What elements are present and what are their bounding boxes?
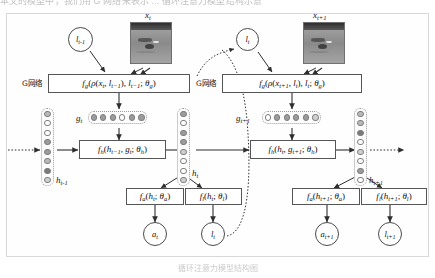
g-network-label-left: G网络	[22, 80, 42, 88]
location-head-box-t1: fl(ht+1; θl)	[361, 188, 427, 205]
action-head-box-t1-formula: fa(ht+1; θa)	[307, 191, 345, 202]
glimpse-location-node-t: lt	[236, 28, 259, 51]
core-network-box-t: fh(ht−1, gt; θh)	[79, 140, 166, 159]
input-image-label-t1: xt+1	[313, 11, 326, 21]
action-head-box-t-formula: fa(ht; θa)	[140, 191, 171, 202]
hidden-state-label-t-prev: ht-1	[56, 176, 68, 186]
hidden-state-t-unit	[180, 177, 186, 183]
glimpse-node-t-prev-sub: t-1	[78, 39, 85, 45]
glimpse-node-t-sub: t	[248, 39, 250, 45]
hidden-state-t-prev-unit	[44, 149, 50, 155]
hidden-state-column-t-next	[354, 108, 367, 186]
hidden-state-t-next-unit	[357, 130, 363, 136]
figure-page: 本文的模型中，我们用 G 网络来表示 ... 循环注意力模型结构示意	[0, 0, 435, 278]
output-node-location-t: lt	[201, 222, 225, 246]
location-head-box-t-formula: fl(ht; θl)	[200, 191, 228, 202]
hidden-state-column-t	[177, 108, 190, 186]
hidden-state-label-t-next-sub: t+1	[374, 179, 383, 186]
hidden-state-t-prev-unit	[44, 111, 50, 117]
hidden-state-t-prev-unit	[44, 120, 50, 126]
hidden-state-t-prev-unit	[44, 139, 50, 145]
core-network-box-t-formula: fh(ht−1, gt; θh)	[98, 144, 147, 155]
hidden-state-label-t-prev-sub: t-1	[61, 179, 68, 186]
hidden-state-t-unit	[180, 120, 186, 126]
glimpse-vector-t1-unit	[303, 114, 309, 120]
output-node-location-t-sub: t	[213, 233, 215, 239]
g-network-label-right: G网络	[196, 80, 216, 88]
input-image-label-t1-sub: t+1	[317, 14, 326, 21]
glimpse-vector-t1-unit	[293, 114, 299, 120]
hidden-state-column-t-prev	[41, 108, 54, 186]
hidden-state-t-prev-unit	[44, 158, 50, 164]
glimpse-vector-t-unit	[91, 114, 97, 120]
hidden-state-t-unit	[180, 168, 186, 174]
glimpse-vector-t1-unit	[284, 114, 290, 120]
glimpse-vector-t-unit	[110, 114, 116, 120]
glimpse-vector-label-t1-sub: t+1	[241, 117, 250, 124]
hidden-state-t-unit	[180, 130, 186, 136]
hidden-state-t-unit	[180, 149, 186, 155]
glimpse-vector-label-t-sub: t	[81, 117, 83, 124]
hidden-state-t-prev-unit	[44, 168, 50, 174]
output-node-action-t1: at+1	[315, 222, 339, 246]
glimpse-vector-t-unit	[100, 114, 106, 120]
glimpse-location-node-t-prev: lt-1	[68, 27, 93, 52]
glimpse-vector-t-unit	[119, 114, 125, 120]
g-network-box-t1: fg(ρ(xt+1, lt), lt; θg)	[222, 74, 362, 93]
figure-bottom-caption: 循环注意力模型结构图	[0, 262, 435, 273]
core-network-box-t1: fh(ht, gt+1; θh)	[250, 140, 336, 159]
hidden-state-t-unit	[180, 158, 186, 164]
location-head-box-t1-formula: fl(ht+1; θl)	[376, 191, 411, 202]
output-node-location-t1-sub: t+1	[387, 233, 396, 239]
hidden-state-t-next-unit	[357, 168, 363, 174]
hidden-state-t-unit	[180, 111, 186, 117]
input-image-thumbnail-t1	[303, 22, 345, 64]
glimpse-vector-label-t: gt	[76, 114, 82, 124]
glimpse-vector-t1-unit	[274, 114, 280, 120]
hidden-state-label-t-sub: t	[197, 172, 199, 179]
location-head-box-t: fl(ht; θl)	[185, 188, 242, 205]
glimpse-vector-t-unit	[129, 114, 135, 120]
glimpse-vector-t-unit	[138, 114, 144, 120]
hidden-state-t-next-unit	[357, 158, 363, 164]
output-node-action-t-sub: t	[156, 233, 158, 239]
output-node-action-t: at	[143, 222, 167, 246]
g-network-box-t: fg(ρ(xt, lt−1), lt−1; θg)	[48, 74, 190, 93]
hidden-state-t-next-unit	[357, 120, 363, 126]
glimpse-vector-t1-unit	[312, 114, 318, 120]
core-network-box-t1-formula: fh(ht, gt+1; θh)	[269, 144, 318, 155]
hidden-state-t-next-unit	[357, 177, 363, 183]
hidden-state-label-t: ht	[192, 169, 198, 179]
output-node-action-t1-sub: t+1	[325, 233, 334, 239]
g-network-box-t1-formula: fg(ρ(xt+1, lt), lt; θg)	[259, 78, 325, 89]
g-network-box-t-formula: fg(ρ(xt, lt−1), lt−1; θg)	[82, 78, 155, 89]
input-image-thumbnail-t	[130, 22, 172, 64]
input-image-label-t: xt	[145, 11, 151, 21]
hidden-state-t-unit	[180, 139, 186, 145]
hidden-state-t-next-unit	[357, 149, 363, 155]
glimpse-vector-t1-unit	[265, 114, 271, 120]
hidden-state-t-next-unit	[357, 111, 363, 117]
action-head-box-t1: fa(ht+1; θa)	[292, 188, 360, 205]
input-image-label-t-sub: t	[149, 14, 151, 21]
glimpse-vector-label-t1: gt+1	[236, 114, 250, 124]
hidden-state-t-prev-unit	[44, 177, 50, 183]
glimpse-vector-units-t1	[262, 111, 321, 124]
hidden-state-t-next-unit	[357, 139, 363, 145]
hidden-state-t-prev-unit	[44, 130, 50, 136]
output-node-location-t1: lt+1	[378, 222, 402, 246]
glimpse-vector-units-t	[88, 111, 147, 124]
action-head-box-t: fa(ht; θa)	[126, 188, 184, 205]
hidden-state-label-t-next: ht+1	[369, 176, 383, 186]
